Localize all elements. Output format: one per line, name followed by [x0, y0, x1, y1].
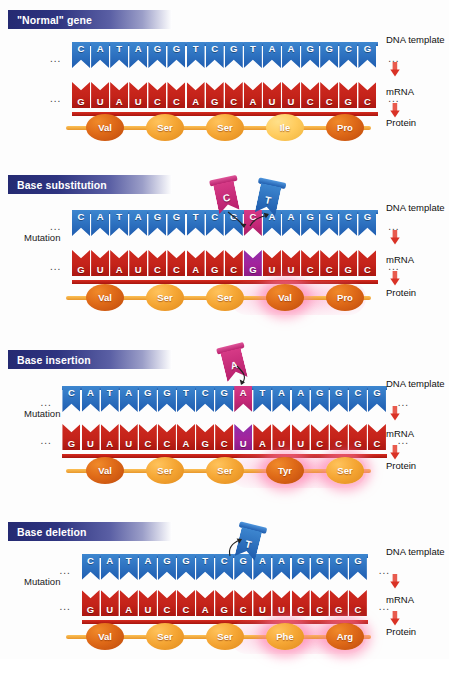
dna-base: G	[167, 42, 185, 68]
dna-base: C	[339, 42, 357, 68]
arrow-down-icon	[390, 611, 399, 625]
dna-strand: ......CATAGGTCGTAAGGCG	[72, 42, 378, 76]
arrow-down-icon	[390, 230, 399, 244]
mrna-base-letter: A	[249, 95, 256, 108]
protein-chain: ValSerSerIlePro	[66, 113, 371, 143]
legend-dna-template: DNA template	[386, 378, 446, 390]
mrna-base: U	[129, 82, 147, 108]
mrna-base: A	[187, 82, 205, 108]
token-layer: CT	[0, 165, 449, 330]
dna-base: A	[129, 42, 147, 68]
legend-mrna: mRNA	[386, 86, 414, 98]
legend-dna-template: DNA template	[386, 546, 446, 558]
ellipsis-left: ...	[50, 93, 61, 104]
dna-base-letter: G	[306, 42, 313, 55]
mrna-base-letter: G	[345, 95, 352, 108]
mrna-base: C	[320, 82, 338, 108]
mrna-base-letter: C	[173, 95, 180, 108]
dna-base-letter: A	[135, 42, 142, 55]
dna-bases: CATAGGTCGTAAGGCG	[72, 42, 378, 68]
dna-base-letter: T	[116, 42, 122, 55]
legend-protein: Protein	[386, 117, 416, 129]
dna-base: C	[72, 42, 90, 68]
insertion-arrow	[0, 340, 449, 505]
mrna-base: G	[72, 82, 90, 108]
panel-base-insertion: Base insertionMutation......CATAGGTCGATA…	[0, 340, 449, 505]
amino-acid: Ser	[146, 114, 184, 141]
legend-mrna: mRNA	[386, 254, 414, 266]
dna-base: G	[148, 42, 166, 68]
mrna-base-letter: U	[288, 95, 295, 108]
token-layer: A	[0, 340, 449, 505]
mrna-base-letter: U	[135, 95, 142, 108]
dna-base-letter: T	[193, 42, 199, 55]
mrna-base: C	[358, 82, 376, 108]
dna-base-letter: G	[230, 42, 237, 55]
arrow-down-icon	[390, 406, 399, 420]
amino-acid: Ser	[206, 114, 244, 141]
mrna-base-letter: U	[269, 95, 276, 108]
mrna-base: G	[339, 82, 357, 108]
legend-protein: Protein	[386, 626, 416, 638]
legend-mrna: mRNA	[386, 428, 414, 440]
arrow-down-icon	[390, 62, 399, 76]
mrna-bases: GUAUCCAGCAUUCCGC	[72, 82, 378, 108]
dna-base-letter: G	[364, 42, 371, 55]
dna-base: G	[358, 42, 376, 68]
mrna-strand: ......GUAUCCAGCAUUCCGC	[72, 82, 378, 116]
mrna-base-letter: G	[211, 95, 218, 108]
dna-base: T	[110, 42, 128, 68]
legend-dna-template: DNA template	[386, 34, 446, 46]
mrna-base: A	[110, 82, 128, 108]
mrna-base: U	[263, 82, 281, 108]
amino-acid: Ile	[266, 114, 304, 141]
ellipsis-left: ...	[50, 53, 61, 64]
dna-base-letter: C	[211, 42, 218, 55]
mrna-base: A	[244, 82, 262, 108]
mrna-base: C	[301, 82, 319, 108]
mrna-base: C	[167, 82, 185, 108]
mrna-base-letter: A	[116, 95, 123, 108]
legend-protein: Protein	[386, 460, 416, 472]
dna-base-letter: T	[250, 42, 256, 55]
amino-acid: Val	[86, 114, 124, 141]
mrna-base-letter: G	[77, 95, 84, 108]
arrow-down-icon	[390, 574, 399, 588]
dna-base-letter: C	[78, 42, 85, 55]
dna-base: A	[282, 42, 300, 68]
dna-base-letter: G	[173, 42, 180, 55]
mrna-base-letter: C	[364, 95, 371, 108]
legend-protein: Protein	[386, 287, 416, 299]
dna-base: T	[187, 42, 205, 68]
mrna-base: C	[148, 82, 166, 108]
panel-normal-gene: "Normal" gene......CATAGGTCGTAAGGCG.....…	[0, 0, 449, 165]
arrow-down-icon	[390, 103, 399, 117]
dna-base: G	[301, 42, 319, 68]
dna-base-letter: C	[345, 42, 352, 55]
mrna-base: U	[91, 82, 109, 108]
mrna-base-letter: C	[307, 95, 314, 108]
dna-base: G	[225, 42, 243, 68]
legend-dna-template: DNA template	[386, 202, 446, 214]
arrow-down-icon	[390, 271, 399, 285]
panel-base-deletion: Base deletionMutation......CATAGGTCGAAGG…	[0, 512, 449, 674]
mrna-base-letter: U	[97, 95, 104, 108]
legend-mrna: mRNA	[386, 594, 414, 606]
mrna-base-letter: A	[192, 95, 199, 108]
mrna-base-letter: C	[230, 95, 237, 108]
dna-base-letter: A	[288, 42, 295, 55]
deletion-arrow	[0, 512, 449, 674]
arrow-down-icon	[390, 445, 399, 459]
mrna-base: U	[282, 82, 300, 108]
dna-base-letter: G	[326, 42, 333, 55]
mrna-base: C	[225, 82, 243, 108]
dna-base-letter: A	[269, 42, 276, 55]
banner-normal-gene: "Normal" gene	[8, 10, 172, 29]
dna-base: A	[263, 42, 281, 68]
dna-base: G	[320, 42, 338, 68]
dna-base: C	[206, 42, 224, 68]
mrna-base-letter: C	[154, 95, 161, 108]
token-layer: T	[0, 512, 449, 674]
banner-label: "Normal" gene	[8, 14, 92, 26]
